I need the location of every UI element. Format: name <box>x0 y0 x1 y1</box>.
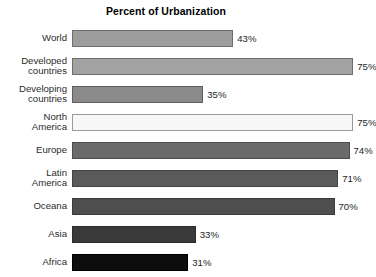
bar-track: 70% <box>72 192 358 220</box>
category-label: Asia <box>0 229 72 240</box>
chart-title: Percent of Urbanization <box>0 5 332 17</box>
bar <box>72 142 350 159</box>
bar-row: Developing countries35% <box>0 80 332 108</box>
category-label: Europe <box>0 145 72 156</box>
bar <box>72 114 353 131</box>
bar-row: Latin America71% <box>0 164 332 192</box>
bar <box>72 58 353 75</box>
category-label: Africa <box>0 257 72 268</box>
bar-value-label: 70% <box>339 201 358 212</box>
bar-row: Oceana70% <box>0 192 332 220</box>
category-label: World <box>0 33 72 44</box>
bar-track: 33% <box>72 220 332 248</box>
bar <box>72 254 188 271</box>
bar-value-label: 43% <box>237 33 256 44</box>
bar <box>72 226 196 243</box>
bar <box>72 86 203 103</box>
bar-track: 75% <box>72 108 376 136</box>
bar-row: Developed countries75% <box>0 52 332 80</box>
bar <box>72 198 335 215</box>
bar <box>72 170 338 187</box>
plot-area: World43%Developed countries75%Developing… <box>0 24 332 277</box>
bar-row: Europe74% <box>0 136 332 164</box>
category-label: North America <box>0 112 72 133</box>
category-label: Latin America <box>0 168 72 189</box>
bar-value-label: 75% <box>357 61 376 72</box>
bar-track: 35% <box>72 80 332 108</box>
bar-row: Asia33% <box>0 220 332 248</box>
bar-value-label: 75% <box>357 117 376 128</box>
bar-track: 75% <box>72 52 376 80</box>
bar-row: North America75% <box>0 108 332 136</box>
bar-row: Africa31% <box>0 248 332 276</box>
category-label: Developing countries <box>0 84 72 105</box>
bar-value-label: 74% <box>354 145 373 156</box>
bar-track: 43% <box>72 24 332 52</box>
bar-row: World43% <box>0 24 332 52</box>
bar-value-label: 35% <box>207 89 226 100</box>
bar-track: 31% <box>72 248 332 276</box>
category-label: Oceana <box>0 201 72 212</box>
bar-track: 74% <box>72 136 373 164</box>
bar <box>72 30 233 47</box>
bar-track: 71% <box>72 164 361 192</box>
bar-value-label: 31% <box>192 257 211 268</box>
bar-value-label: 71% <box>342 173 361 184</box>
bar-value-label: 33% <box>200 229 219 240</box>
category-label: Developed countries <box>0 56 72 77</box>
